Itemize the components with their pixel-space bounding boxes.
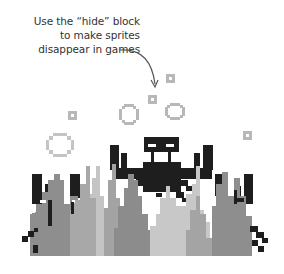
bubble-icon: [68, 111, 77, 120]
bubble-icon: [166, 74, 175, 83]
bubble-icon: [165, 103, 185, 120]
bubble-icon: [119, 104, 139, 125]
bubble-icon: [46, 133, 74, 157]
bubble-icon: [148, 95, 157, 104]
pixel-scene: [0, 0, 284, 274]
callout-arrow-icon: [119, 50, 158, 87]
bubble-icon: [243, 131, 252, 140]
